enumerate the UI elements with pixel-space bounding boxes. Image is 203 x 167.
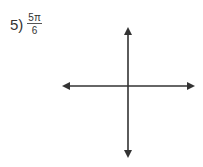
up-arrowhead-icon: [124, 27, 132, 35]
left-arrowhead-icon: [62, 82, 70, 90]
down-arrowhead-icon: [124, 150, 132, 158]
right-arrowhead-icon: [187, 82, 195, 90]
vertical-axis: [124, 27, 132, 158]
coordinate-axes: [0, 0, 203, 167]
